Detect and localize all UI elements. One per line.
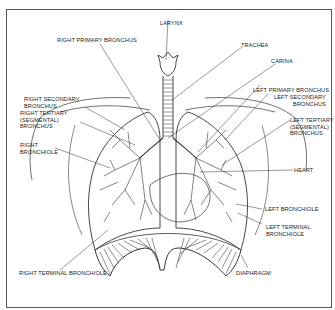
label-right-terminal-bronchiole: RIGHT TERMINAL BRONCHIOLE bbox=[19, 270, 107, 277]
label-left-terminal-bronchiole: LEFT TERMINAL BRONCHIOLE bbox=[266, 224, 311, 237]
label-right-bronchiole: RIGHT BRONCHIOLE bbox=[20, 142, 58, 155]
label-heart: HEART bbox=[294, 167, 313, 174]
label-left-secondary-bronchus: LEFT SECONDARY BRONCHUS bbox=[274, 94, 326, 107]
label-diaphragm: DIAPHRAGM bbox=[236, 270, 271, 277]
label-larynx: LARYNX bbox=[160, 20, 183, 27]
label-left-bronchiole: LEFT BRONCHIOLE bbox=[265, 206, 319, 213]
label-left-primary-bronchus: LEFT PRIMARY BRONCHUS bbox=[253, 87, 329, 94]
label-trachea: TRACHEA bbox=[241, 42, 268, 49]
label-right-secondary-bronchus: RIGHT SECONDARY BRONCHUS bbox=[24, 96, 80, 109]
label-right-primary-bronchus: RIGHT PRIMARY BRONCHUS bbox=[57, 37, 137, 44]
label-carina: CARINA bbox=[271, 58, 293, 65]
label-left-tertiary-bronchus: LEFT TERTIARY (SEGMENTAL) BRONCHUS bbox=[290, 117, 334, 137]
label-right-tertiary-bronchus: RIGHT TERTIARY (SEGMENTAL) BRONCHUS bbox=[20, 110, 68, 130]
